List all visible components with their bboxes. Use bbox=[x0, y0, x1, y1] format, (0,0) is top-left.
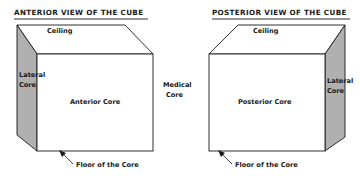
posterior-floor-label: Floor of the Core bbox=[235, 161, 298, 169]
posterior-lateral-label-line2: Core bbox=[327, 87, 345, 95]
medical-core-label-group: Medical Core bbox=[163, 81, 192, 99]
panel-anterior-title: ANTERIOR VIEW OF THE CUBE bbox=[14, 8, 143, 17]
anterior-floor-label: Floor of the Core bbox=[76, 161, 139, 169]
cube-diagram-figure: ANTERIOR VIEW OF THE CUBE Ceiling Latera… bbox=[0, 0, 360, 179]
panel-anterior: ANTERIOR VIEW OF THE CUBE Ceiling Latera… bbox=[14, 8, 153, 169]
anterior-ceiling-label: Ceiling bbox=[47, 27, 73, 35]
medical-core-label-line2: Core bbox=[166, 91, 184, 99]
anterior-ceiling-face bbox=[17, 25, 153, 54]
panel-posterior: POSTERIOR VIEW OF THE CUBE Ceiling Later… bbox=[209, 8, 353, 169]
posterior-lateral-label-line1: Lateral bbox=[327, 77, 353, 85]
panel-posterior-title: POSTERIOR VIEW OF THE CUBE bbox=[212, 8, 347, 17]
medical-core-label-line1: Medical bbox=[163, 81, 192, 89]
posterior-ceiling-label: Ceiling bbox=[253, 27, 279, 35]
anterior-lateral-label-line1: Lateral bbox=[19, 71, 45, 79]
diagram-canvas: ANTERIOR VIEW OF THE CUBE Ceiling Latera… bbox=[0, 0, 360, 179]
anterior-lateral-label-line2: Core bbox=[19, 81, 37, 89]
anterior-front-label: Anterior Core bbox=[70, 98, 121, 106]
posterior-front-label: Posterior Core bbox=[238, 98, 292, 106]
